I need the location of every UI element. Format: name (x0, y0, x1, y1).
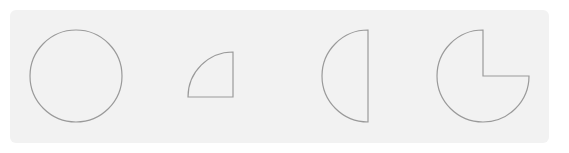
half-circle-shape (322, 30, 368, 122)
quarter-circle-shape (188, 52, 233, 97)
fraction-shapes-diagram (0, 0, 569, 153)
three-quarter-circle-shape (437, 30, 529, 122)
full-circle-shape (30, 30, 122, 122)
